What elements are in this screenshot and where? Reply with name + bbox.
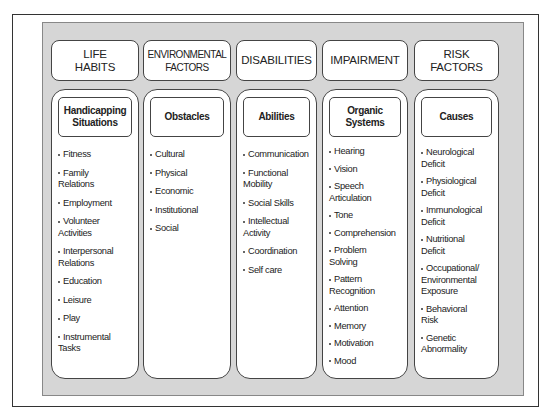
list-item: Instrumental Tasks <box>58 332 134 355</box>
bullet-icon <box>243 269 245 271</box>
bullet-icon <box>58 281 60 283</box>
bullet-icon <box>421 308 423 310</box>
bullet-icon <box>421 152 423 154</box>
list-item: Comprehension <box>329 228 403 240</box>
subheader-handicapping-situations: Handicapping Situations <box>58 97 132 137</box>
list-item: Economic <box>150 186 226 198</box>
bullet-icon <box>329 151 331 153</box>
bullet-icon <box>329 279 331 281</box>
bullet-icon <box>150 209 152 211</box>
list-item: Speech Articulation <box>329 181 403 204</box>
bullet-icon <box>58 251 60 253</box>
bullet-icon <box>243 221 245 223</box>
list-item: Nutritional Deficit <box>421 234 494 257</box>
header-life-habits: LIFE HABITS <box>51 40 139 81</box>
bullet-icon <box>421 337 423 339</box>
bullet-icon <box>58 172 60 174</box>
list-item: Vision <box>329 164 403 176</box>
column-impairment: Organic Systems Hearing Vision Speech Ar… <box>322 89 408 379</box>
bullet-icon <box>421 268 423 270</box>
list-item: Mood <box>329 356 403 368</box>
list-item: Hearing <box>329 146 403 158</box>
subheader-obstacles: Obstacles <box>150 97 224 137</box>
list-item: Pattern Recognition <box>329 274 403 297</box>
bullet-icon <box>421 181 423 183</box>
list-impairment: Hearing Vision Speech Articulation Tone … <box>323 146 407 367</box>
bullet-icon <box>150 228 152 230</box>
bullet-icon <box>243 172 245 174</box>
bullet-icon <box>329 215 331 217</box>
list-life-habits: Fitness Family Relations Employment Volu… <box>52 149 138 355</box>
bullet-icon <box>329 250 331 252</box>
list-item: Volunteer Activities <box>58 216 134 239</box>
list-item: Motivation <box>329 338 403 350</box>
list-disabilities: Communication Functional Mobility Social… <box>237 149 316 276</box>
bullet-icon <box>58 154 60 156</box>
header-environmental-factors: ENVIRONMENTAL FACTORS <box>143 40 231 81</box>
bullet-icon <box>329 186 331 188</box>
bullet-icon <box>58 318 60 320</box>
list-item: Immunological Deficit <box>421 205 494 228</box>
bullet-icon <box>58 202 60 204</box>
list-risk-factors: Neurological Deficit Physiological Defic… <box>415 147 498 356</box>
bullet-icon <box>58 299 60 301</box>
bullet-icon <box>421 239 423 241</box>
list-item: Attention <box>329 303 403 315</box>
list-item: Physiological Deficit <box>421 176 494 199</box>
subheader-organic-systems: Organic Systems <box>329 97 401 137</box>
bullet-icon <box>329 325 331 327</box>
column-environmental-factors: Obstacles Cultural Physical Economic Ins… <box>143 89 231 379</box>
bullet-icon <box>150 154 152 156</box>
list-item: Institutional <box>150 205 226 217</box>
bullet-icon <box>329 343 331 345</box>
bullet-icon <box>243 202 245 204</box>
bullet-icon <box>243 251 245 253</box>
bullet-icon <box>329 232 331 234</box>
column-life-habits: Handicapping Situations Fitness Family R… <box>51 89 139 379</box>
list-item: Tone <box>329 210 403 222</box>
list-item: Functional Mobility <box>243 168 312 191</box>
list-item: Social <box>150 223 226 235</box>
list-item: Social Skills <box>243 198 312 210</box>
list-item: Fitness <box>58 149 134 161</box>
list-item: Play <box>58 313 134 325</box>
list-item: Interpersonal Relations <box>58 246 134 269</box>
bullet-icon <box>243 154 245 156</box>
list-item: Communication <box>243 149 312 161</box>
bullet-icon <box>58 221 60 223</box>
bullet-icon <box>329 360 331 362</box>
column-disabilities: Abilities Communication Functional Mobil… <box>236 89 317 379</box>
list-item: Problem Solving <box>329 245 403 268</box>
list-item: Physical <box>150 168 226 180</box>
bullet-icon <box>421 210 423 212</box>
header-impairment: IMPAIRMENT <box>322 40 408 81</box>
bullet-icon <box>150 172 152 174</box>
bullet-icon <box>329 308 331 310</box>
list-item: Coordination <box>243 246 312 258</box>
list-item: Occupational/ Environmental Exposure <box>421 263 494 298</box>
list-environmental-factors: Cultural Physical Economic Institutional… <box>144 149 230 235</box>
list-item: Memory <box>329 321 403 333</box>
list-item: Neurological Deficit <box>421 147 494 170</box>
bullet-icon <box>150 191 152 193</box>
list-item: Family Relations <box>58 168 134 191</box>
subheader-causes: Causes <box>421 97 492 137</box>
bullet-icon <box>329 168 331 170</box>
list-item: Employment <box>58 198 134 210</box>
header-risk-factors: RISK FACTORS <box>414 40 499 81</box>
list-item: Intellectual Activity <box>243 216 312 239</box>
list-item: Behavioral Risk <box>421 304 494 327</box>
header-disabilities: DISABILITIES <box>236 40 317 81</box>
subheader-abilities: Abilities <box>243 97 310 137</box>
column-risk-factors: Causes Neurological Deficit Physiologica… <box>414 89 499 379</box>
list-item: Cultural <box>150 149 226 161</box>
bullet-icon <box>58 336 60 338</box>
list-item: Leisure <box>58 295 134 307</box>
list-item: Education <box>58 276 134 288</box>
list-item: Genetic Abnormality <box>421 333 494 356</box>
list-item: Self care <box>243 265 312 277</box>
